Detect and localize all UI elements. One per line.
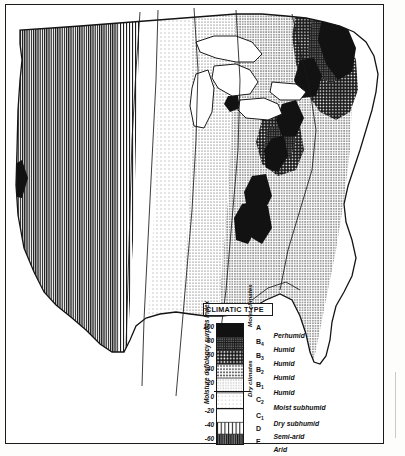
swatch-semi-arid [217, 422, 243, 434]
swatch-humid-b4 [217, 337, 243, 350]
legend-entry-semi-arid: D Semi-arid [256, 425, 304, 437]
legend-group-moist-climates: Moist climates [246, 284, 253, 327]
legend-label: Arid [273, 446, 287, 453]
swatch-dry-subhumid [217, 409, 243, 423]
legend-entry-humid-b1: B1 Humid [256, 381, 295, 393]
legend-symbol: A [256, 324, 269, 331]
legend-symbol: B3 [256, 352, 269, 361]
swatch-perhumid [217, 324, 243, 337]
legend-label: Humid [273, 389, 294, 396]
legend-symbol: B1 [256, 381, 269, 390]
legend-title: CLIMATIC TYPE [206, 305, 264, 314]
scale-value: -20 [205, 407, 214, 414]
swatch-humid-b2 [217, 364, 243, 378]
legend-scale-values: 100 80 60 40 20 0 -20 -40 -60 [192, 323, 214, 445]
legend-entry-moist-subhumid: C2 Moist subhumid [256, 396, 326, 408]
scale-value: 20 [207, 379, 214, 386]
swatch-moist-subhumid [217, 393, 243, 409]
legend-swatch-column [216, 323, 244, 445]
swatch-arid [217, 434, 243, 444]
swatch-humid-b3 [217, 351, 243, 365]
legend-symbol: C2 [256, 396, 269, 405]
legend-symbol: B4 [256, 338, 269, 347]
legend-entry-arid: E Arid [256, 438, 287, 450]
scale-value: 60 [207, 351, 214, 358]
legend-label: Moist subhumid [273, 404, 325, 411]
legend-label: Humid [273, 374, 294, 381]
climatic-type-figure: CLIMATIC TYPE Moisture deficiency surplu… [0, 0, 405, 456]
scale-value: 100 [203, 323, 214, 330]
legend-entry-humid-b2: B2 Humid [256, 366, 295, 378]
scale-value: -60 [205, 435, 214, 442]
legend-entry-dry-subhumid: C1 Dry subhumid [256, 412, 319, 424]
scale-value: 40 [207, 365, 214, 372]
legend-symbol: C1 [256, 412, 269, 421]
legend-symbol: E [256, 438, 269, 445]
scale-value: -40 [205, 421, 214, 428]
map-legend: CLIMATIC TYPE Moisture deficiency surplu… [186, 305, 356, 452]
legend-symbol: B2 [256, 366, 269, 375]
legend-entry-perhumid: A Perhumid [256, 324, 305, 336]
scale-value: 80 [207, 337, 214, 344]
legend-entry-humid-b4: B4 Humid [256, 338, 295, 350]
legend-entry-humid-b3: B3 Humid [256, 352, 295, 364]
legend-symbol: D [256, 425, 269, 432]
scale-value: 0 [210, 393, 214, 400]
legend-group-dry-climates: Dry climates [246, 360, 253, 397]
